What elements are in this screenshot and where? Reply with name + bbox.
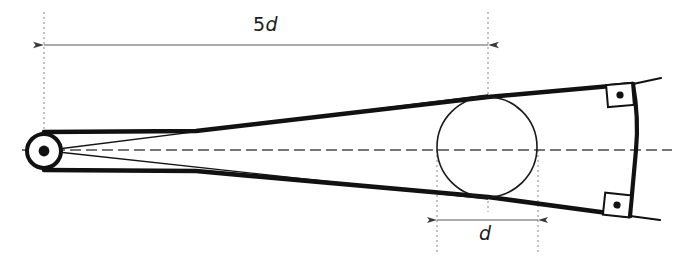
right-angle-marker-upper [606,83,634,107]
large-pulley-circle [437,97,537,197]
belt-upper-tail [633,78,661,84]
diagram-canvas: 5d d [0,0,683,259]
dimension-label-d: d [479,222,492,244]
belt-lower-tail [630,216,660,220]
belt-upper-run [44,84,633,132]
dimension-label-5d-symbol: d [266,13,279,35]
tangent-rays [58,95,488,199]
belt-outline [44,78,661,220]
dimension-label-5d-number: 5 [253,13,266,35]
right-angle-marker-lower [603,193,631,218]
dimension-label-5d: 5d [253,13,278,35]
belt-lower-run [44,170,630,216]
small-pulley-hub [39,146,50,157]
small-pulley [27,134,61,168]
dimension-label-d-symbol: d [479,222,492,244]
tangent-ray-upper [58,95,488,149]
belt-drive-schematic [0,0,683,259]
tangent-ray-lower [58,152,488,199]
